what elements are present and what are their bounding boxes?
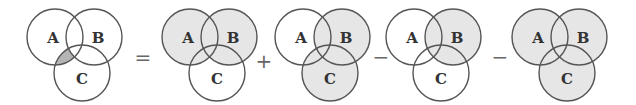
label-b: B bbox=[340, 29, 353, 47]
venn-diagram-term-1: A B C bbox=[162, 9, 257, 101]
label-b: B bbox=[577, 29, 590, 47]
label-b: B bbox=[451, 29, 464, 47]
equals-operator: = bbox=[135, 45, 152, 69]
venn-equation: A B C = A B C + A B C − A B C − bbox=[0, 0, 636, 105]
label-c: C bbox=[324, 70, 336, 88]
plus-operator: + bbox=[256, 49, 273, 73]
label-c: C bbox=[211, 70, 223, 88]
minus-operator-2: − bbox=[492, 45, 509, 69]
label-a: A bbox=[405, 29, 418, 47]
label-c: C bbox=[435, 70, 447, 88]
label-c: C bbox=[561, 70, 573, 88]
label-b: B bbox=[227, 29, 240, 47]
venn-diagram-term-4: A B C bbox=[512, 9, 607, 101]
venn-diagram-term-3: A B C bbox=[386, 9, 481, 101]
label-a: A bbox=[46, 29, 59, 47]
venn-equation-svg: A B C = A B C + A B C − A B C − bbox=[0, 0, 636, 105]
minus-operator-1: − bbox=[373, 45, 390, 69]
label-b: B bbox=[92, 29, 105, 47]
venn-diagram-term-2: A B C bbox=[275, 9, 370, 101]
label-a: A bbox=[181, 29, 194, 47]
label-a: A bbox=[294, 29, 307, 47]
venn-diagram-lhs: A B C bbox=[27, 9, 122, 101]
label-c: C bbox=[76, 70, 88, 88]
label-a: A bbox=[531, 29, 544, 47]
